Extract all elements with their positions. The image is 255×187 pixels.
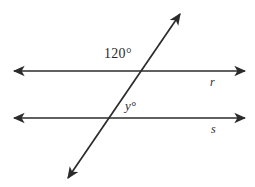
angle-label-y: y° xyxy=(125,99,136,112)
line-label-r: r xyxy=(210,76,215,88)
angle-label-120: 120° xyxy=(104,47,132,61)
geometry-canvas xyxy=(0,0,255,187)
transversal-line xyxy=(68,14,180,178)
line-label-s: s xyxy=(211,123,216,135)
geometry-figure: 120° y° r s xyxy=(0,0,255,187)
